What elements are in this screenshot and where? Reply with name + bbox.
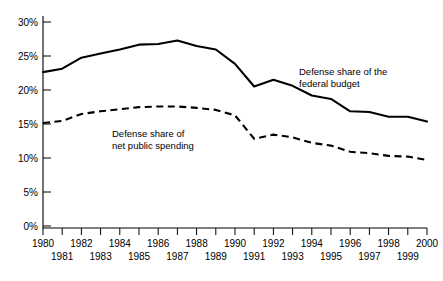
x-tick-label: 1985 bbox=[128, 251, 151, 262]
x-tick-label: 2000 bbox=[416, 238, 439, 249]
x-tick-label: 1994 bbox=[301, 238, 324, 249]
y-tick-label: 20% bbox=[18, 85, 38, 96]
y-tick-label: 25% bbox=[18, 51, 38, 62]
y-axis-tick-labels: 30% 25% 20% 15% 10% 5% 0% bbox=[18, 17, 38, 232]
series-line-net-public-spending bbox=[43, 106, 427, 160]
x-tick-label: 1988 bbox=[185, 238, 208, 249]
annotation-line: Defense share of bbox=[112, 128, 185, 139]
x-tick-label: 1989 bbox=[205, 251, 228, 262]
y-tick-label: 0% bbox=[24, 221, 39, 232]
x-tick-label: 1990 bbox=[224, 238, 247, 249]
x-tick-label: 1991 bbox=[243, 251, 266, 262]
x-tick-label: 1993 bbox=[281, 251, 304, 262]
x-tick-label: 1986 bbox=[147, 238, 170, 249]
x-axis-ticks bbox=[43, 228, 427, 235]
annotation-federal-budget: Defense share of the federal budget bbox=[299, 66, 387, 89]
annotation-line: Defense share of the bbox=[299, 66, 387, 77]
chart-plot-area: 30% 25% 20% 15% 10% 5% 0% bbox=[0, 0, 443, 281]
y-tick-label: 10% bbox=[18, 153, 38, 164]
y-tick-label: 5% bbox=[24, 187, 39, 198]
x-tick-label: 1995 bbox=[320, 251, 343, 262]
y-tick-label: 15% bbox=[18, 119, 38, 130]
series-line-federal-budget bbox=[43, 41, 427, 122]
x-tick-label: 1980 bbox=[32, 238, 55, 249]
x-tick-label: 1996 bbox=[339, 238, 362, 249]
x-tick-label: 1992 bbox=[262, 238, 285, 249]
annotation-line: federal budget bbox=[299, 78, 360, 89]
x-axis-tick-labels-lower: 1981 1983 1985 1987 1989 1991 1993 1995 … bbox=[51, 251, 419, 262]
x-tick-label: 1983 bbox=[89, 251, 112, 262]
defense-share-line-chart: 30% 25% 20% 15% 10% 5% 0% bbox=[0, 0, 443, 281]
y-axis-ticks bbox=[43, 22, 51, 226]
x-tick-label: 1987 bbox=[166, 251, 189, 262]
x-tick-label: 1998 bbox=[377, 238, 400, 249]
annotation-net-public-spending: Defense share of net public spending bbox=[112, 128, 194, 151]
annotation-line: net public spending bbox=[112, 140, 194, 151]
x-tick-label: 1984 bbox=[109, 238, 132, 249]
axis-frame bbox=[43, 16, 427, 228]
x-tick-label: 1981 bbox=[51, 251, 74, 262]
y-tick-label: 30% bbox=[18, 17, 38, 28]
x-tick-label: 1982 bbox=[70, 238, 93, 249]
x-axis-tick-labels-upper: 1980 1982 1984 1986 1988 1990 1992 1994 … bbox=[32, 238, 439, 249]
x-tick-label: 1997 bbox=[358, 251, 381, 262]
x-tick-label: 1999 bbox=[397, 251, 420, 262]
